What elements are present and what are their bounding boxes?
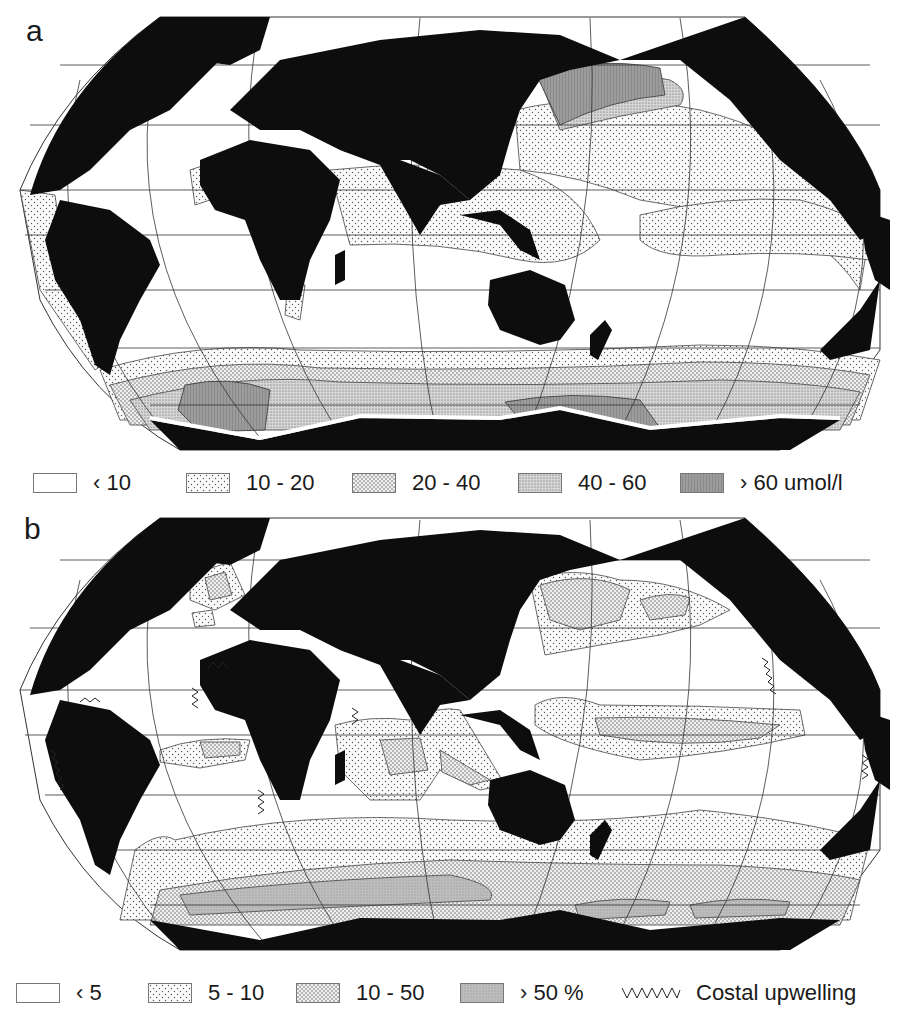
legend-item-lt5: ‹ 5 [16, 980, 102, 1006]
legend-label: 10 - 20 [246, 470, 315, 496]
swatch-dots-medium [352, 473, 396, 493]
map-a-nutrient-concentration [0, 0, 915, 460]
legend-b: ‹ 5 5 - 10 10 - 50 › 50 % Costal upwelli… [0, 972, 915, 1012]
legend-label: ‹ 5 [76, 980, 102, 1006]
map-b-percentage-upwelling [0, 510, 915, 960]
swatch-dots-light [186, 473, 230, 493]
legend-label: 40 - 60 [578, 470, 647, 496]
swatch-dots-medium [296, 983, 340, 1003]
swatch-empty [33, 473, 77, 493]
swatch-dots-dense [518, 473, 562, 493]
legend-item-lt10: ‹ 10 [33, 470, 131, 496]
legend-item-40-60: 40 - 60 [518, 470, 647, 496]
legend-item-10-20: 10 - 20 [186, 470, 315, 496]
legend-item-20-40: 20 - 40 [352, 470, 481, 496]
legend-item-upwelling: Costal upwelling [620, 980, 856, 1006]
legend-label: › 50 % [520, 980, 584, 1006]
swatch-gray [460, 983, 504, 1003]
legend-label: 5 - 10 [208, 980, 264, 1006]
panel-b: b [0, 510, 915, 1020]
legend-item-10-50: 10 - 50 [296, 980, 425, 1006]
zigzag-upwelling-icon [620, 984, 682, 1002]
legend-label: 10 - 50 [356, 980, 425, 1006]
swatch-empty [16, 983, 60, 1003]
legend-label: 20 - 40 [412, 470, 481, 496]
legend-a: ‹ 10 10 - 20 20 - 40 40 - 60 › 60 umol/l [0, 462, 915, 502]
madagascar [335, 250, 345, 285]
zone-5-10-north-atlantic-small [192, 610, 215, 627]
swatch-dots-light [148, 983, 192, 1003]
legend-label: ‹ 10 [93, 470, 131, 496]
panel-a: a [0, 0, 915, 510]
madagascar [335, 750, 345, 785]
zone-10-50-equatorial-atlantic [200, 742, 240, 758]
legend-label: › 60 umol/l [740, 470, 843, 496]
legend-item-5-10: 5 - 10 [148, 980, 264, 1006]
swatch-gray-dark [680, 473, 724, 493]
legend-item-gt50: › 50 % [460, 980, 584, 1006]
legend-label: Costal upwelling [696, 980, 856, 1006]
legend-item-gt60: › 60 umol/l [680, 470, 843, 496]
